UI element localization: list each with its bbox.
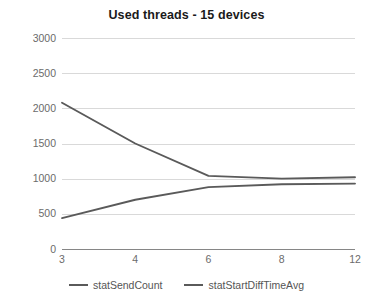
series-line bbox=[62, 103, 355, 179]
chart-container: Used threads - 15 devices 05001000150020… bbox=[0, 0, 373, 304]
legend-item-statsendcount[interactable]: statSendCount bbox=[69, 279, 162, 291]
legend-item-label: statSendCount bbox=[93, 279, 162, 291]
legend-item-statstartdifftimeavg[interactable]: statStartDiffTimeAvg bbox=[184, 279, 304, 291]
series-lines bbox=[0, 0, 373, 304]
legend-item-label: statStartDiffTimeAvg bbox=[208, 279, 304, 291]
legend-line-marker-icon bbox=[69, 284, 88, 286]
legend-line-marker-icon bbox=[184, 284, 203, 286]
chart-legend: statSendCount statStartDiffTimeAvg bbox=[0, 279, 373, 291]
series-line bbox=[62, 184, 355, 218]
